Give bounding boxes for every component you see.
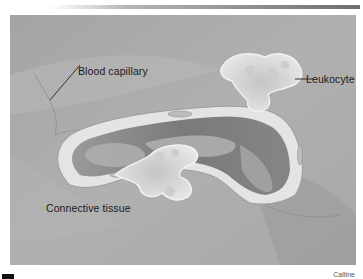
label-blood-capillary: Blood capillary <box>78 65 148 77</box>
capillary-illustration <box>10 15 356 265</box>
label-connective-tissue: Connective tissue <box>46 202 131 214</box>
figure-number-marker <box>2 274 14 279</box>
artist-credit: Caltine <box>333 271 355 278</box>
label-leukocyte: Leukocyte <box>306 73 355 85</box>
illustration-panel: Blood capillary Leukocyte Connective tis… <box>10 15 356 265</box>
scan-page-edge <box>50 5 360 9</box>
